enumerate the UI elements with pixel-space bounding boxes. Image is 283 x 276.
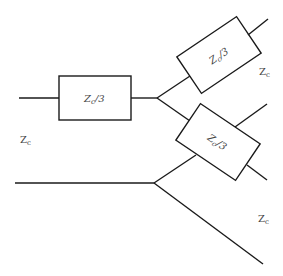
junction1-branch-up [157, 76, 190, 98]
lower-branch-group: Zc/3 [176, 104, 260, 181]
upper-branch-group: Zc/3 [177, 17, 261, 94]
junction1-branch-down [157, 98, 190, 121]
upper-box-output-wire [248, 19, 268, 35]
port-label-right-lower: Zc [258, 213, 269, 226]
port-label-right-upper: Zc [259, 66, 270, 79]
port-label-left: Zc [20, 134, 31, 147]
lower-box-output-wire-upper [235, 104, 267, 127]
junction2-branch-down [154, 183, 263, 264]
junction2-branch-up [154, 155, 196, 183]
lower-box-output-wire-lower [247, 165, 267, 180]
circuit-diagram: Zc/3 Zc/3 Zc/3 Zc Zc Zc [0, 0, 283, 276]
